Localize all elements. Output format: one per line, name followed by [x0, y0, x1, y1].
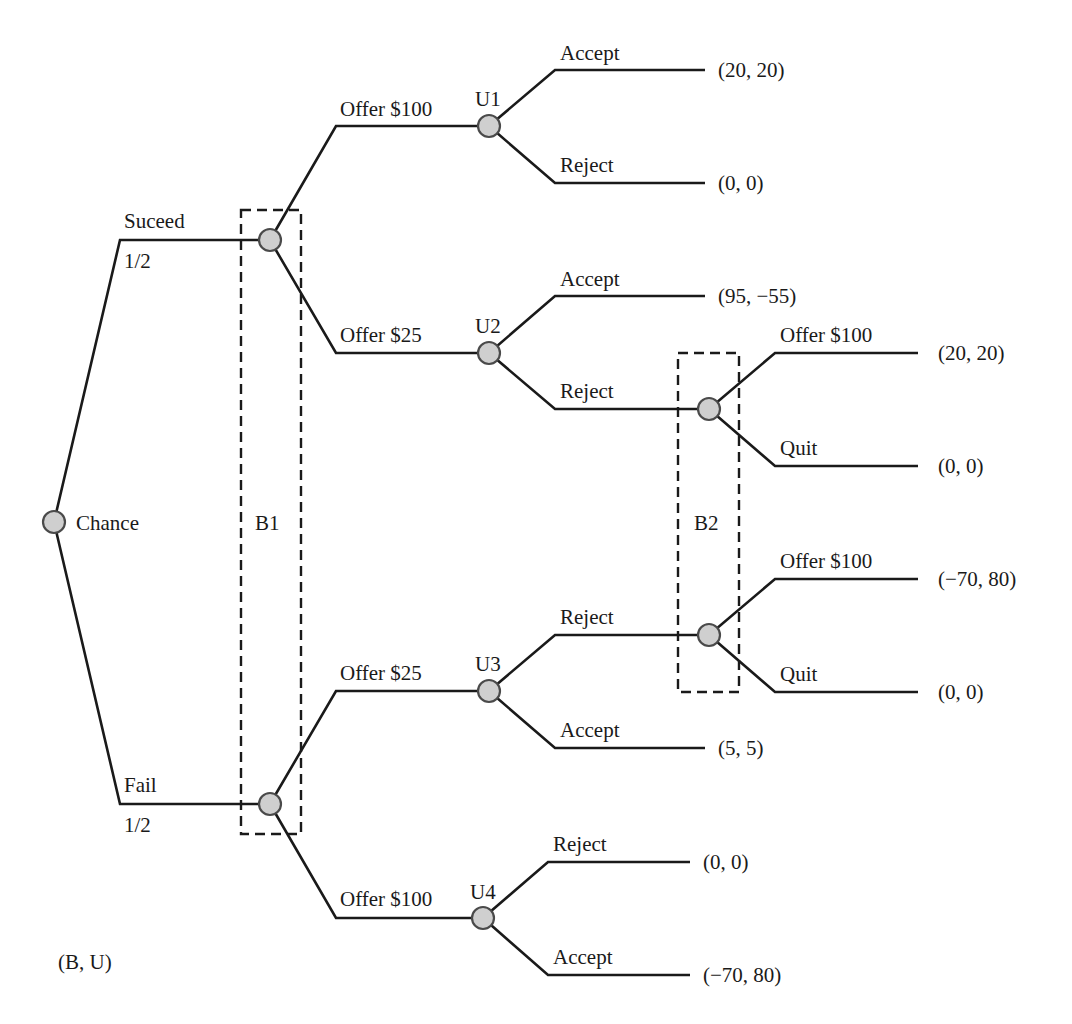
edge-u3-reject: [489, 635, 709, 691]
edge-b1-bottom-offer-25: [270, 691, 489, 804]
b2-top-node: [698, 398, 720, 420]
edge-fail: [54, 522, 270, 804]
b1-label: B1: [255, 511, 280, 535]
u2-label: U2: [475, 314, 501, 338]
b2-top-quit-label: Quit: [780, 436, 818, 460]
u1-reject-payoff: (0, 0): [718, 171, 764, 195]
u1-accept-payoff: (20, 20): [718, 58, 785, 82]
u4-reject-payoff: (0, 0): [703, 850, 749, 874]
chance-node: [43, 511, 65, 533]
edge-b2-bottom-offer-100: [709, 579, 918, 635]
game-tree-diagram: Chance Suceed 1/2 Fail 1/2 B1 B2 Offer $…: [0, 0, 1072, 1024]
u1-node: [478, 115, 500, 137]
u3-label: U3: [475, 652, 501, 676]
u4-node: [472, 907, 494, 929]
b2-top-offer-100-label: Offer $100: [780, 323, 872, 347]
u2-accept-payoff: (95, −55): [718, 284, 796, 308]
edge-u1-accept: [489, 70, 705, 126]
u3-accept-label: Accept: [560, 718, 620, 742]
u4-label: U4: [470, 880, 496, 904]
fail-probability: 1/2: [124, 813, 151, 837]
offer-25-to-u2-label: Offer $25: [340, 323, 422, 347]
b2-top-offer-100-payoff: (20, 20): [938, 341, 1005, 365]
u4-accept-label: Accept: [553, 945, 613, 969]
succeed-probability: 1/2: [124, 249, 151, 273]
u4-accept-payoff: (−70, 80): [703, 963, 781, 987]
b2-label: B2: [694, 511, 719, 535]
b2-top-quit-payoff: (0, 0): [938, 454, 984, 478]
b2-bottom-offer-100-label: Offer $100: [780, 549, 872, 573]
offer-100-to-u1-label: Offer $100: [340, 97, 432, 121]
b1-top-node: [259, 229, 281, 251]
succeed-label: Suceed: [124, 209, 185, 233]
b2-bottom-node: [698, 624, 720, 646]
u1-accept-label: Accept: [560, 41, 620, 65]
u1-label: U1: [475, 87, 501, 111]
offer-100-to-u4-label: Offer $100: [340, 887, 432, 911]
u2-node: [478, 342, 500, 364]
payoff-order-legend: (B, U): [58, 950, 112, 974]
edge-b2-top-offer-100: [709, 353, 918, 409]
u3-node: [478, 680, 500, 702]
fail-label: Fail: [124, 773, 157, 797]
b2-bottom-quit-payoff: (0, 0): [938, 680, 984, 704]
edge-u2-accept: [489, 296, 705, 353]
b2-bottom-offer-100-payoff: (−70, 80): [938, 567, 1016, 591]
u3-accept-payoff: (5, 5): [718, 736, 764, 760]
b1-bottom-node: [259, 793, 281, 815]
edge-u4-reject: [483, 862, 690, 918]
b2-bottom-quit-label: Quit: [780, 662, 818, 686]
offer-25-to-u3-label: Offer $25: [340, 661, 422, 685]
edge-b1-top-offer-100: [270, 126, 489, 240]
u2-accept-label: Accept: [560, 267, 620, 291]
u4-reject-label: Reject: [553, 832, 607, 856]
u1-reject-label: Reject: [560, 153, 614, 177]
edge-succeed: [54, 240, 270, 522]
u3-reject-label: Reject: [560, 605, 614, 629]
chance-label: Chance: [76, 511, 139, 535]
u2-reject-label: Reject: [560, 379, 614, 403]
